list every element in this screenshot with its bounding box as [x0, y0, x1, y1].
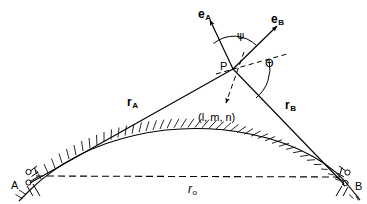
surface-tail-hatching: [16, 190, 359, 201]
point-b-label: B: [355, 181, 362, 192]
vector-e-b-base: e: [271, 12, 278, 26]
point-a-label: A: [11, 180, 18, 191]
vector-e-a-subscript: A: [205, 13, 211, 22]
point-p-label: P: [220, 61, 227, 72]
angle-theta-label: Θ: [265, 58, 274, 69]
direction-cosines-label: (l, m, n): [198, 112, 235, 123]
range-r-a-subscript: A: [132, 101, 138, 110]
range-r-b-subscript: B: [290, 104, 296, 113]
baseline-r-o-label: ro: [188, 183, 197, 197]
range-r-b-base: r: [285, 98, 290, 112]
surface-tail-left: [19, 190, 30, 201]
earth-surface-arc: [30, 129, 352, 190]
vector-e-b-subscript: B: [278, 18, 284, 27]
range-r-a-line: [30, 69, 233, 183]
range-r-b-label: rB: [285, 99, 296, 113]
angle-psi-label: ψ: [237, 30, 244, 41]
range-r-a-base: r: [127, 95, 132, 109]
range-r-a-label: rA: [127, 96, 138, 110]
diagram-canvas: [0, 0, 367, 204]
vector-e-a-base: e: [198, 7, 205, 21]
baseline-r-o-line: [36, 176, 344, 177]
range-r-b-line: [233, 69, 344, 184]
baseline-r-o-subscript: o: [192, 188, 197, 197]
vector-e-a-label: eA: [198, 8, 211, 22]
scattering-geometry-figure: eA eB ψ Θ P rA rB (l, m, n) ro A B: [0, 0, 367, 204]
station-symbol-b: [336, 166, 350, 196]
vector-e-b-label: eB: [271, 13, 284, 27]
